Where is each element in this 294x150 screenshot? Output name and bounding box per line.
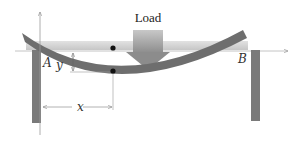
point-on-deflected-beam	[110, 68, 115, 73]
deflection-y-label: y	[55, 58, 63, 72]
right-support-post	[251, 50, 260, 121]
point-b-label: B	[237, 52, 247, 66]
point-on-straight-beam	[110, 45, 115, 50]
distance-x-label: x	[77, 100, 84, 114]
point-a-label: A	[42, 56, 52, 70]
load-label: Load	[135, 10, 162, 25]
beam-deflection-diagram: Load A y B x	[0, 0, 294, 150]
